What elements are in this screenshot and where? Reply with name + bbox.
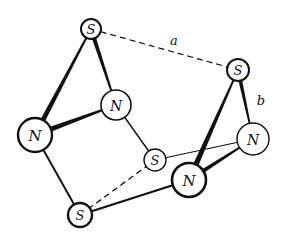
s4n4-structure-diagram: SNNSSNSN ab — [0, 0, 283, 239]
atom-label: S — [76, 208, 85, 223]
labels-layer: ab — [170, 33, 265, 108]
atom-n2: N — [18, 118, 52, 152]
atom-s3: S — [68, 203, 92, 227]
atom-label: N — [246, 132, 260, 148]
atom-label: S — [87, 22, 96, 37]
atom-label: S — [151, 153, 160, 168]
bond-s3-s2 — [80, 160, 155, 215]
atom-label: S — [234, 63, 243, 78]
atoms-layer: SNNSSNSN — [18, 19, 269, 227]
bonds-layer — [33, 28, 254, 215]
distance-label-a: a — [170, 33, 178, 48]
atom-s2: S — [144, 149, 166, 171]
bond-s1-s4 — [91, 29, 238, 70]
atom-s4: S — [227, 59, 249, 81]
atom-s1: S — [81, 19, 101, 39]
atom-label: N — [27, 127, 42, 145]
atom-n1: N — [101, 90, 131, 120]
distance-label-b: b — [257, 93, 265, 108]
atom-label: N — [181, 172, 196, 190]
atom-n4: N — [237, 123, 269, 155]
atom-n3: N — [172, 163, 206, 197]
atom-label: N — [109, 98, 123, 114]
